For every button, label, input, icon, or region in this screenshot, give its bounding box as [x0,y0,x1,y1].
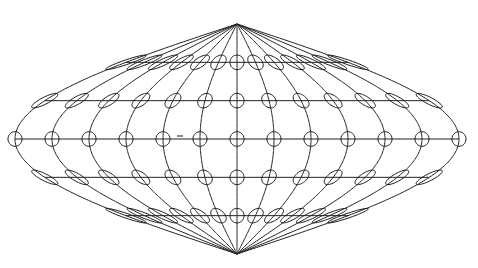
sinusoidal-map-figure [0,0,478,268]
